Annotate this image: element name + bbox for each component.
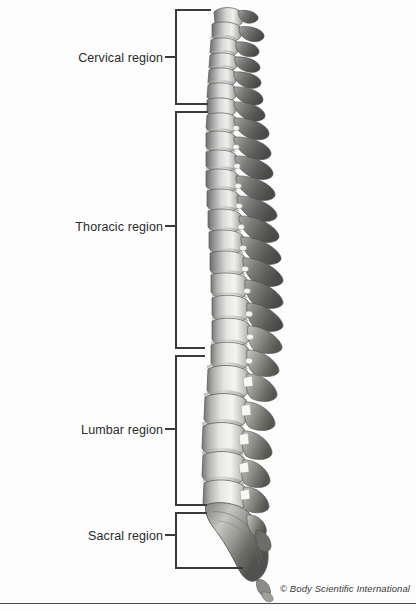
label-lumbar-region: Lumbar region: [81, 423, 163, 437]
label-thoracic-region: Thoracic region: [75, 220, 163, 234]
label-sacral-region: Sacral region: [88, 529, 163, 543]
vertebral-column-figure: Cervical region Thoracic region Lumbar r…: [0, 0, 416, 611]
bracket-cervical: [165, 10, 211, 104]
bracket-sacral: [165, 513, 243, 568]
region-brackets: [0, 0, 416, 611]
label-cervical-region: Cervical region: [78, 51, 163, 65]
bracket-lumbar: [165, 356, 207, 505]
bracket-thoracic: [165, 112, 208, 348]
